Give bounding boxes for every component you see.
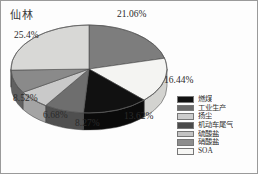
pie-data-label: 21.06% [117, 9, 146, 19]
pie-data-label: 8.52% [13, 93, 38, 103]
legend-swatch-icon [177, 131, 194, 138]
legend-item[interactable]: 硝酸盐 [177, 138, 255, 147]
legend-swatch-icon [177, 96, 194, 103]
legend-item-label: SOA [198, 147, 213, 156]
pie-chart [1, 7, 186, 132]
legend-item[interactable]: 燃煤 [177, 95, 255, 104]
legend-item[interactable]: SOA [177, 147, 255, 156]
legend-swatch-icon [177, 148, 194, 155]
chart-legend: 燃煤工业生产扬尘机动车尾气硫酸盐硝酸盐SOA [177, 95, 255, 156]
legend-item-label: 工业生产 [198, 104, 226, 113]
legend-item-label: 燃煤 [198, 95, 212, 104]
legend-item-label: 机动车尾气 [198, 121, 233, 130]
legend-swatch-icon [177, 113, 194, 120]
pie-data-label: 6.68% [43, 110, 68, 120]
legend-item-label: 硫酸盐 [198, 130, 219, 139]
pie-data-label: 13.62% [124, 111, 153, 121]
pie-data-label: 8.27% [75, 118, 100, 128]
legend-item-label: 扬尘 [198, 112, 212, 121]
legend-swatch-icon [177, 105, 194, 112]
legend-item[interactable]: 硫酸盐 [177, 130, 255, 139]
legend-item-label: 硝酸盐 [198, 138, 219, 147]
pie-data-label: 16.44% [164, 75, 193, 85]
legend-item[interactable]: 扬尘 [177, 112, 255, 121]
legend-item[interactable]: 机动车尾气 [177, 121, 255, 130]
legend-item[interactable]: 工业生产 [177, 104, 255, 113]
pie-data-label: 25.4% [14, 30, 39, 40]
legend-swatch-icon [177, 139, 194, 146]
legend-swatch-icon [177, 122, 194, 129]
pie-chart-svg [1, 7, 186, 132]
chart-panel: 仙林 21.06%25.4%16.44%8.52%13.62%6.68%8.27… [0, 0, 258, 174]
